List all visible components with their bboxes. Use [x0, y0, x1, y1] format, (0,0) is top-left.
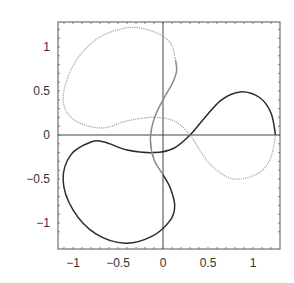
y-tick-labels: −1−0.500.51: [26, 40, 50, 230]
curve-segment-2: [150, 60, 176, 174]
x-tick-label: −1: [66, 256, 80, 270]
x-tick-label: −0.5: [106, 256, 130, 270]
x-tick-label: 1: [250, 256, 257, 270]
y-tick-label: 1: [43, 40, 50, 54]
y-tick-label: 0.5: [33, 84, 50, 98]
curve-segment-3: [63, 27, 275, 179]
x-tick-label: 0.5: [200, 256, 217, 270]
curve-segment-1: [63, 92, 275, 243]
x-tick-labels: −1−0.500.51: [66, 256, 257, 270]
parametric-plot: −1−0.500.51 −1−0.500.51: [0, 0, 294, 283]
x-tick-label: 0: [160, 256, 167, 270]
y-tick-label: −1: [36, 216, 50, 230]
y-tick-label: −0.5: [26, 172, 50, 186]
y-tick-label: 0: [43, 128, 50, 142]
